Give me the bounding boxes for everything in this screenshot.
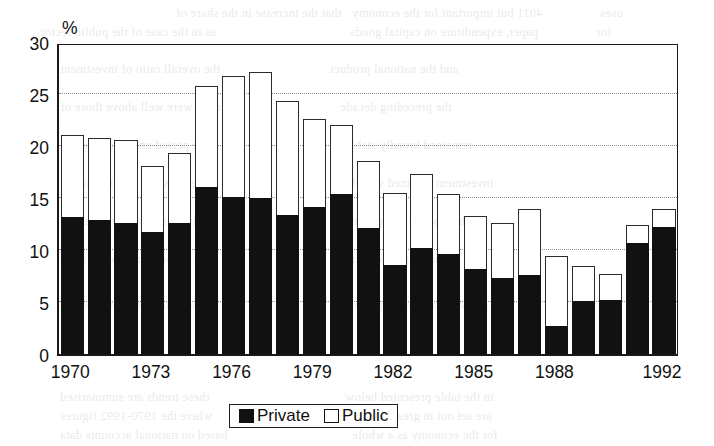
x-tick-label-1970: 1970 xyxy=(51,362,90,383)
bar-segment-private-1985 xyxy=(464,269,487,354)
bar-1984 xyxy=(437,42,460,354)
bar-1971 xyxy=(88,42,111,354)
bar-segment-private-1970 xyxy=(61,217,84,354)
y-axis: 051015202530 xyxy=(0,0,57,446)
x-tick-label-1982: 1982 xyxy=(374,362,413,383)
legend-label-private: Private xyxy=(257,407,310,424)
stacked-bar-chart-figure: 051015202530 % 1970197319761979198219851… xyxy=(0,0,714,446)
y-tick-label-10: 10 xyxy=(3,242,49,263)
x-tick-label-1973: 1973 xyxy=(131,362,170,383)
bar-segment-private-1975 xyxy=(195,187,218,354)
bar-1989 xyxy=(572,42,595,354)
bar-segment-private-1981 xyxy=(357,228,380,354)
y-tick-label-25: 25 xyxy=(3,86,49,107)
bar-segment-private-1984 xyxy=(437,254,460,354)
bar-segment-private-1974 xyxy=(168,223,191,354)
bar-1985 xyxy=(464,42,487,354)
filled-black-square-icon xyxy=(239,409,254,423)
bar-segment-private-1972 xyxy=(114,223,137,354)
bar-1987 xyxy=(518,42,541,354)
bar-segment-private-1983 xyxy=(410,248,433,354)
x-tick-label-1992: 1992 xyxy=(643,362,682,383)
bar-1975 xyxy=(195,42,218,354)
bar-1988 xyxy=(545,42,568,354)
x-tick-label-1976: 1976 xyxy=(212,362,251,383)
bar-1992 xyxy=(652,42,675,354)
bar-1991 xyxy=(626,42,649,354)
legend-label-public: Public xyxy=(342,407,388,424)
bar-segment-private-1978 xyxy=(276,215,299,354)
legend-item-public: Public xyxy=(324,407,388,424)
y-tick-label-30: 30 xyxy=(3,34,49,55)
bar-segment-private-1982 xyxy=(383,265,406,354)
bar-segment-private-1971 xyxy=(88,220,111,354)
bar-1990 xyxy=(599,42,622,354)
bar-1982 xyxy=(383,42,406,354)
chart-legend: PrivatePublic xyxy=(229,404,398,428)
y-tick-label-5: 5 xyxy=(3,294,49,315)
bar-1980 xyxy=(330,42,353,354)
bar-1973 xyxy=(141,42,164,354)
bar-1979 xyxy=(303,42,326,354)
x-tick-label-1985: 1985 xyxy=(454,362,493,383)
bar-1976 xyxy=(222,42,245,354)
bar-segment-private-1977 xyxy=(249,198,272,354)
bar-segment-private-1988 xyxy=(545,326,568,354)
bar-1983 xyxy=(410,42,433,354)
bar-segment-private-1973 xyxy=(141,232,164,354)
bar-segment-private-1980 xyxy=(330,194,353,354)
y-tick-label-0: 0 xyxy=(3,346,49,367)
y-tick-label-20: 20 xyxy=(3,138,49,159)
y-tick-label-15: 15 xyxy=(3,190,49,211)
plot-area xyxy=(57,44,678,356)
bar-segment-private-1991 xyxy=(626,243,649,354)
bar-segment-private-1989 xyxy=(572,301,595,354)
bar-1974 xyxy=(168,42,191,354)
bar-1981 xyxy=(357,42,380,354)
hollow-white-square-icon xyxy=(324,409,339,423)
legend-item-private: Private xyxy=(239,407,310,424)
bar-segment-private-1990 xyxy=(599,300,622,354)
bar-1986 xyxy=(491,42,514,354)
y-axis-unit-label: % xyxy=(62,18,78,39)
bar-segment-private-1979 xyxy=(303,207,326,354)
bar-segment-private-1992 xyxy=(652,227,675,354)
bar-1970 xyxy=(61,42,84,354)
bar-1977 xyxy=(249,42,272,354)
x-tick-label-1979: 1979 xyxy=(293,362,332,383)
bar-1972 xyxy=(114,42,137,354)
x-tick-label-1988: 1988 xyxy=(535,362,574,383)
bar-segment-private-1976 xyxy=(222,197,245,354)
bar-segment-private-1987 xyxy=(518,275,541,354)
bar-segment-private-1986 xyxy=(491,278,514,354)
bar-1978 xyxy=(276,42,299,354)
